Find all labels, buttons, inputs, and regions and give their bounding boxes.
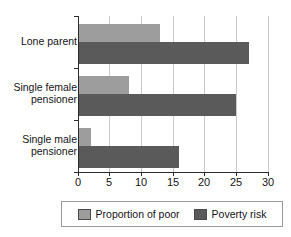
x-tick-label-5: 5 xyxy=(97,176,121,188)
x-tick-label-10: 10 xyxy=(129,176,153,188)
bar-single-male-pensioner-proportion-of-poor xyxy=(78,128,91,146)
legend-label-poverty-risk: Poverty risk xyxy=(212,208,267,220)
bar-single-female-pensioner-poverty-risk xyxy=(78,94,236,116)
bar-single-male-pensioner-poverty-risk xyxy=(78,146,179,168)
x-tick-label-0: 0 xyxy=(66,176,90,188)
chart-legend: Proportion of poor Poverty risk xyxy=(61,201,283,227)
category-label-single-female-pensioner: Single female pensioner xyxy=(13,81,77,105)
x-tick-label-30: 30 xyxy=(256,176,280,188)
y-axis-tick-top xyxy=(74,16,79,17)
bar-lone-parent-poverty-risk xyxy=(78,42,249,64)
category-label-single-male-pensioner: Single male pensioner xyxy=(22,133,77,157)
category-label-lone-parent: Lone parent xyxy=(21,35,77,47)
y-axis-line xyxy=(78,16,79,173)
bar-single-female-pensioner-proportion-of-poor xyxy=(78,76,129,94)
legend-entry-proportion-of-poor: Proportion of poor xyxy=(78,208,180,220)
y-axis-tick-1 xyxy=(74,68,79,69)
plot-area xyxy=(78,16,268,172)
x-tick-label-20: 20 xyxy=(192,176,216,188)
legend-label-proportion-of-poor: Proportion of poor xyxy=(96,208,180,220)
legend-swatch-icon-poverty-risk xyxy=(194,209,207,220)
gridline-30 xyxy=(268,16,269,172)
bar-chart: Lone parent Single female pensioner Sing… xyxy=(0,0,291,237)
legend-entry-poverty-risk: Poverty risk xyxy=(194,208,267,220)
bar-lone-parent-proportion-of-poor xyxy=(78,24,160,42)
plot-wrapper: Lone parent Single female pensioner Sing… xyxy=(0,0,291,196)
x-tick-label-25: 25 xyxy=(224,176,248,188)
legend-swatch-icon-proportion-of-poor xyxy=(78,209,91,220)
y-axis-tick-2 xyxy=(74,120,79,121)
x-tick-label-15: 15 xyxy=(161,176,185,188)
